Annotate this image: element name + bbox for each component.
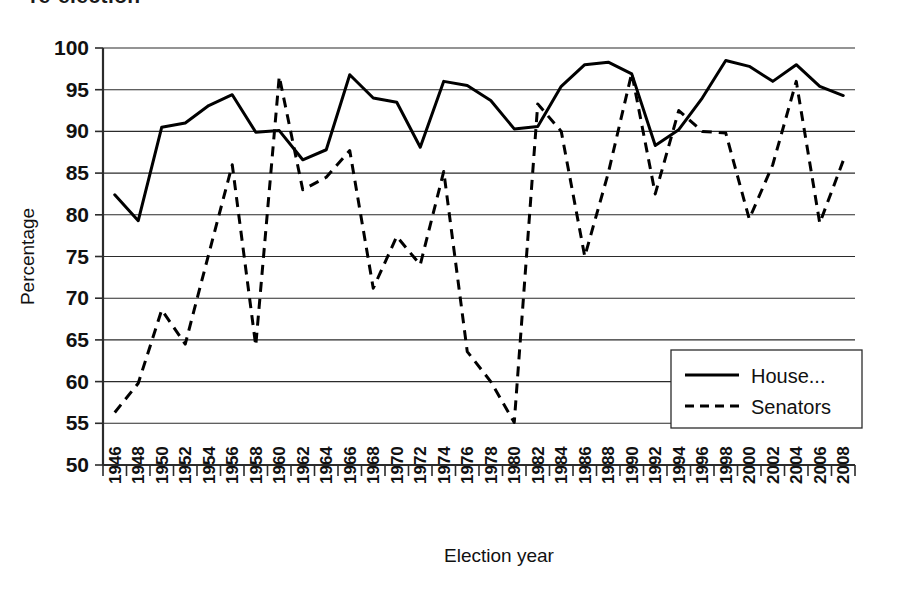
legend-label-house: House... <box>751 365 825 387</box>
y-tick-label: 95 <box>66 78 90 101</box>
y-tick-label: 90 <box>66 119 89 142</box>
chart-legend: House... Senators <box>671 350 862 428</box>
y-tick-label: 70 <box>66 286 89 309</box>
y-tick-label: 85 <box>66 161 90 184</box>
x-axis-title: Election year <box>444 545 555 566</box>
line-chart: 50556065707580859095100 1946194819501952… <box>0 0 904 592</box>
y-tick-label: 60 <box>66 370 89 393</box>
y-tick-label: 65 <box>66 328 90 351</box>
y-tick-label: 100 <box>54 36 89 59</box>
y-tick-label: 50 <box>66 453 89 476</box>
clipped-chart-title: re-election <box>30 0 141 8</box>
y-tick-label: 75 <box>66 245 90 268</box>
y-tick-labels-group: 50556065707580859095100 <box>54 36 89 476</box>
y-axis-title: Percentage <box>17 208 38 305</box>
chart-figure: re-election 50556065707580859095100 1946… <box>0 0 904 592</box>
legend-label-senators: Senators <box>751 396 831 418</box>
y-tick-label: 55 <box>66 411 90 434</box>
y-tick-marks-group <box>95 48 103 465</box>
y-tick-label: 80 <box>66 203 89 226</box>
